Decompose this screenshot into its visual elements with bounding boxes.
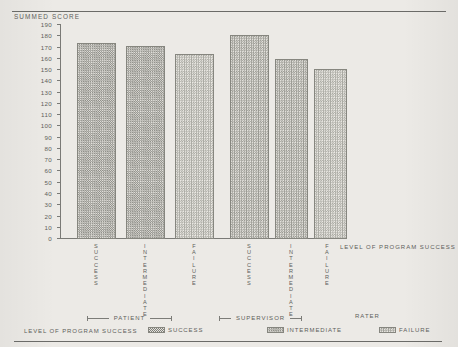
- y-tick-label-160: 160: [41, 54, 52, 61]
- y-tick-40: 40: [57, 193, 61, 194]
- legend-swatch-failure-icon: [379, 327, 396, 333]
- plot-area: 190 180 170 160 150 140 130 120 110 100 …: [60, 24, 325, 239]
- bracket-cap-right: [171, 316, 172, 321]
- bracket-line-right: [290, 318, 301, 319]
- bar-label-supervisor-success: SUCCESS: [244, 243, 254, 286]
- bar-supervisor-failure: [314, 69, 347, 239]
- y-tick-150: 150: [57, 69, 61, 70]
- y-tick-120: 120: [57, 103, 61, 104]
- legend-label-intermediate: INTERMEDIATE: [287, 327, 342, 333]
- legend-item-success[interactable]: SUCCESS: [148, 327, 203, 333]
- top-divider-rule: [12, 11, 446, 12]
- y-tick-60: 60: [57, 170, 61, 171]
- y-tick-20: 20: [57, 216, 61, 217]
- y-tick-label-50: 50: [44, 178, 52, 185]
- y-tick-30: 30: [57, 204, 61, 205]
- bar-label-supervisor-failure: FAILURE: [322, 243, 332, 286]
- bar-label-supervisor-intermediate: INTERMEDIATE: [286, 243, 296, 317]
- bar-patient-success: [77, 43, 116, 239]
- bracket-cap-right: [301, 316, 302, 321]
- group-axis-label-rater: RATER: [355, 313, 380, 319]
- bar-supervisor-success: [230, 35, 269, 239]
- bar-patient-failure: [175, 54, 214, 239]
- bracket-line-right: [150, 318, 171, 319]
- bracket-line-left: [88, 318, 109, 319]
- y-tick-label-130: 130: [41, 88, 52, 95]
- y-tick-80: 80: [57, 148, 61, 149]
- y-tick-label-60: 60: [44, 167, 52, 174]
- y-tick-label-140: 140: [41, 77, 52, 84]
- y-tick-110: 110: [57, 114, 61, 115]
- y-tick-180: 180: [57, 35, 61, 36]
- y-tick-160: 160: [57, 58, 61, 59]
- y-tick-label-150: 150: [41, 66, 52, 73]
- legend-item-failure[interactable]: FAILURE: [379, 327, 430, 333]
- legend-title: LEVEL OF PROGRAM SUCCESS: [24, 328, 137, 334]
- bottom-divider-rule: [14, 341, 442, 342]
- y-tick-label-170: 170: [41, 43, 52, 50]
- y-axis-title: SUMMED SCORE: [14, 13, 80, 20]
- legend-label-success: SUCCESS: [168, 327, 203, 333]
- y-tick-label-180: 180: [41, 32, 52, 39]
- y-tick-100: 100: [57, 125, 61, 126]
- group-bracket-supervisor: SUPERVISOR: [219, 314, 302, 322]
- chart-page: SUMMED SCORE 190 180 170 160 150 140 130…: [0, 0, 458, 347]
- group-label-supervisor: SUPERVISOR: [231, 315, 290, 321]
- legend-swatch-intermediate-icon: [267, 327, 284, 333]
- y-tick-label-100: 100: [41, 122, 52, 129]
- y-tick-50: 50: [57, 182, 61, 183]
- bracket-line-left: [220, 318, 231, 319]
- y-tick-10: 10: [57, 227, 61, 228]
- group-label-patient: PATIENT: [109, 315, 150, 321]
- y-tick-label-40: 40: [44, 190, 52, 197]
- y-tick-label-10: 10: [44, 223, 52, 230]
- y-axis-line: [60, 24, 61, 239]
- y-tick-label-90: 90: [44, 133, 52, 140]
- y-tick-130: 130: [57, 92, 61, 93]
- legend-label-failure: FAILURE: [399, 327, 430, 333]
- y-tick-190: 190: [57, 24, 61, 25]
- y-tick-label-0: 0: [48, 235, 52, 242]
- legend-swatch-success-icon: [148, 327, 165, 333]
- x-axis-title: LEVEL OF PROGRAM SUCCESS: [340, 244, 456, 250]
- y-tick-label-70: 70: [44, 156, 52, 163]
- y-tick-140: 140: [57, 80, 61, 81]
- y-tick-label-80: 80: [44, 144, 52, 151]
- y-tick-70: 70: [57, 159, 61, 160]
- bar-label-patient-failure: FAILURE: [189, 243, 199, 286]
- bar-label-patient-success: SUCCESS: [91, 243, 101, 286]
- y-tick-label-120: 120: [41, 99, 52, 106]
- group-bracket-patient: PATIENT: [87, 314, 172, 322]
- legend: LEVEL OF PROGRAM SUCCESS SUCCESS INTERME…: [24, 327, 434, 337]
- y-tick-label-30: 30: [44, 201, 52, 208]
- bar-patient-intermediate: [126, 46, 165, 239]
- y-tick-label-190: 190: [41, 21, 52, 28]
- y-tick-0: 0: [57, 238, 61, 239]
- y-tick-label-20: 20: [44, 212, 52, 219]
- bar-supervisor-intermediate: [275, 59, 308, 239]
- y-tick-label-110: 110: [41, 111, 52, 118]
- y-tick-90: 90: [57, 137, 61, 138]
- bar-label-patient-intermediate: INTERMEDIATE: [140, 243, 150, 317]
- y-tick-170: 170: [57, 47, 61, 48]
- legend-item-intermediate[interactable]: INTERMEDIATE: [267, 327, 342, 333]
